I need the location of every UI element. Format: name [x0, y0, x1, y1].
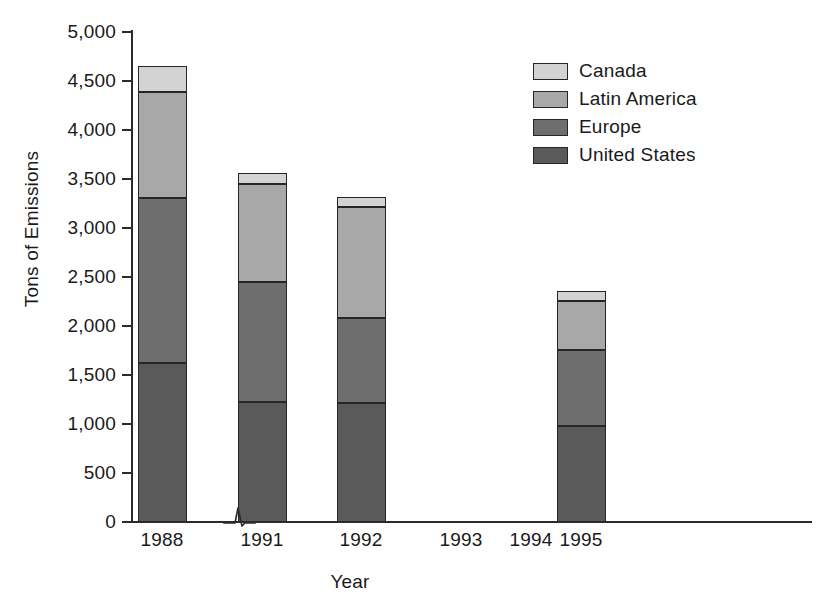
y-axis-tick-label-text: 3,500: [30, 168, 116, 190]
y-axis-tick-label-text: 2,000: [30, 315, 116, 337]
bar-segment: [337, 403, 386, 522]
bar-segment: [557, 350, 606, 425]
bar-segment: [337, 207, 386, 318]
y-axis-tick-label-text: 4,500: [30, 70, 116, 92]
axis-break-icon: [222, 502, 256, 532]
legend-swatch-icon: [533, 63, 568, 80]
y-axis-tick-label-text: 1,000: [30, 413, 116, 435]
y-axis-tick-label: 2,500: [28, 266, 116, 286]
bar-segment: [557, 301, 606, 350]
bar-segment: [238, 184, 287, 282]
x-axis-title: Year: [0, 571, 700, 593]
bar-segment: [138, 363, 187, 522]
y-axis-tick-label: 1,000: [28, 413, 116, 433]
legend-item-label: United States: [579, 144, 696, 166]
y-axis-tick: [122, 178, 132, 180]
y-axis-tick: [122, 472, 132, 474]
bar-segment: [337, 197, 386, 208]
y-axis-tick: [122, 325, 132, 327]
y-axis-tick-label: 5,000: [28, 21, 116, 41]
y-axis-tick-label-text: 5,000: [30, 21, 116, 43]
legend-item[interactable]: Latin America: [533, 85, 697, 113]
y-axis-tick-label-text: 4,000: [30, 119, 116, 141]
y-axis-tick-label-text: 2,500: [30, 266, 116, 288]
bar-segment: [238, 282, 287, 403]
legend-item-label: Europe: [579, 116, 641, 138]
chart-legend: CanadaLatin AmericaEuropeUnited States: [533, 57, 697, 169]
x-axis-tick-label: 1995: [521, 529, 641, 551]
legend-swatch-icon: [533, 147, 568, 164]
bar-stack: [337, 197, 386, 522]
legend-item[interactable]: United States: [533, 141, 697, 169]
y-axis-tick: [122, 276, 132, 278]
y-axis-tick-label-text: 500: [30, 462, 116, 484]
y-axis-tick: [122, 423, 132, 425]
bar-stack: [138, 66, 187, 522]
y-axis-tick-label: 4,000: [28, 119, 116, 139]
y-axis-tick-label: 3,000: [28, 217, 116, 237]
bar-stack: [557, 291, 606, 522]
bar-segment: [557, 291, 606, 302]
y-axis-tick-label: 0: [28, 511, 116, 531]
bar-segment: [238, 173, 287, 184]
bar-segment: [138, 66, 187, 91]
y-axis-tick-label: 1,500: [28, 364, 116, 384]
legend-item-label: Canada: [579, 60, 647, 82]
bar-segment: [138, 198, 187, 364]
y-axis-tick: [122, 80, 132, 82]
y-axis-tick-label: 500: [28, 462, 116, 482]
bar-stack: [238, 173, 287, 522]
y-axis-tick-label: 2,000: [28, 315, 116, 335]
y-axis-tick: [122, 374, 132, 376]
y-axis-tick-label-text: 3,000: [30, 217, 116, 239]
emissions-stacked-bar-chart: Tons of Emissions 5,0004,5004,0003,5003,…: [0, 0, 821, 610]
y-axis-tick: [122, 227, 132, 229]
bar-segment: [337, 318, 386, 403]
y-axis-tick: [122, 31, 132, 33]
bar-segment: [138, 92, 187, 198]
y-axis-tick-label: 3,500: [28, 168, 116, 188]
legend-item-label: Latin America: [579, 88, 697, 110]
y-axis-tick: [122, 129, 132, 131]
legend-swatch-icon: [533, 91, 568, 108]
legend-swatch-icon: [533, 119, 568, 136]
y-axis-tick-label: 4,500: [28, 70, 116, 90]
y-axis-tick-label-text: 1,500: [30, 364, 116, 386]
bar-segment: [557, 426, 606, 522]
legend-item[interactable]: Europe: [533, 113, 697, 141]
legend-item[interactable]: Canada: [533, 57, 697, 85]
